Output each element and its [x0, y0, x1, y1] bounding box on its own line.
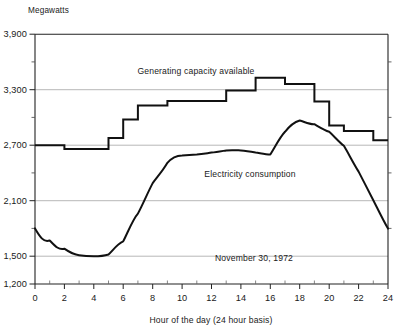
x-tick-label-16: 16: [265, 293, 275, 303]
label-generating-capacity: Generating capacity available: [137, 66, 254, 76]
y-tick-label-3300: 3,300: [4, 85, 28, 95]
x-tick-label-0: 0: [32, 293, 37, 303]
capacity-consumption-line-chart: Megawatts 3,900 3,300 2,700 2,100 1,500 …: [0, 0, 401, 333]
x-axis-title: Hour of the day (24 hour basis): [149, 315, 272, 325]
x-tick-label-6: 6: [121, 293, 126, 303]
y-tick-label-2100: 2,100: [4, 196, 28, 206]
y-axis-unit-label: Megawatts: [28, 6, 69, 15]
x-tick-label-4: 4: [91, 293, 96, 303]
chart-figure: Megawatts 3,900 3,300 2,700 2,100 1,500 …: [0, 0, 401, 333]
x-tick-label-10: 10: [177, 293, 187, 303]
y-tick-label-2700: 2,700: [4, 140, 28, 150]
label-electricity-consumption: Electricity consumption: [204, 169, 295, 179]
x-tick-label-18: 18: [294, 293, 304, 303]
x-tick-label-24: 24: [383, 293, 393, 303]
label-date-note: November 30, 1972: [215, 253, 293, 263]
y-tick-label-3900: 3,900: [4, 29, 28, 39]
x-tick-label-20: 20: [324, 293, 334, 303]
x-tick-label-22: 22: [353, 293, 363, 303]
x-tick-label-2: 2: [62, 293, 67, 303]
y-tick-label-1200: 1,200: [4, 279, 28, 289]
chart-background: [0, 0, 401, 333]
x-tick-label-8: 8: [150, 293, 155, 303]
x-tick-label-14: 14: [236, 293, 246, 303]
y-tick-label-1500: 1,500: [4, 251, 28, 261]
x-tick-label-12: 12: [206, 293, 216, 303]
